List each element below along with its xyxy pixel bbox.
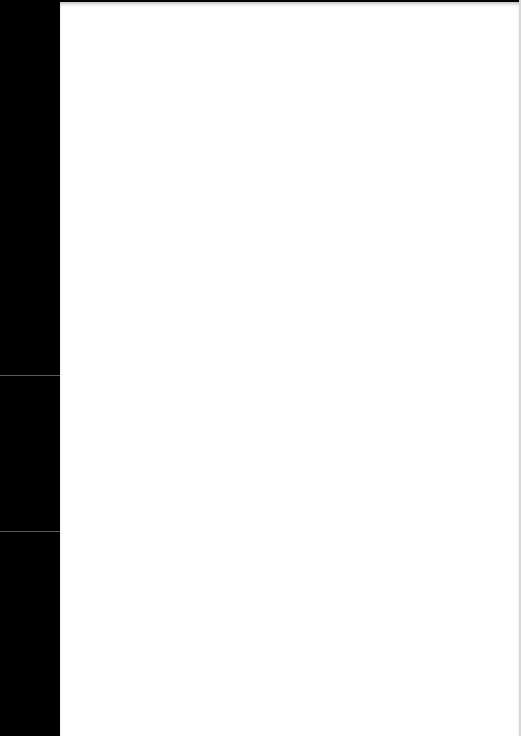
blank-page	[60, 2, 519, 736]
margin-divider-line	[0, 531, 60, 532]
margin-divider-line	[0, 375, 60, 376]
scan-dark-margin	[0, 0, 60, 736]
